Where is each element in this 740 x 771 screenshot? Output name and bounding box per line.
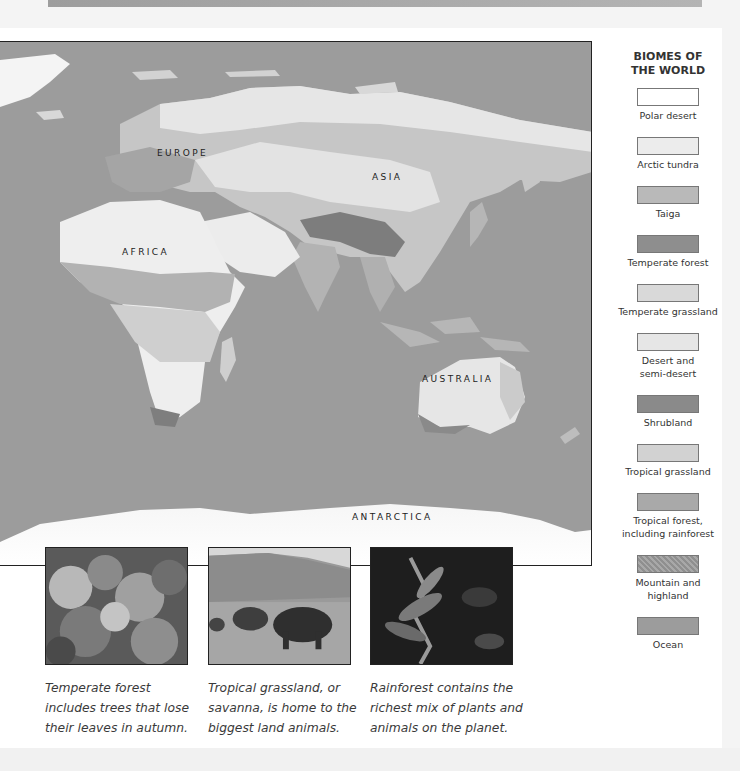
top-banner xyxy=(48,0,702,7)
swatch-desert xyxy=(637,333,699,351)
map-graphic xyxy=(0,42,592,566)
legend-item-ocean: Ocean xyxy=(604,617,732,651)
photo-savanna xyxy=(208,547,351,665)
label-asia: ASIA xyxy=(372,172,402,182)
label-africa: AFRICA xyxy=(122,247,169,257)
label-antarctica: ANTARCTICA xyxy=(352,512,433,522)
bottom-band xyxy=(0,748,740,771)
legend-title: BIOMES OF THE WORLD xyxy=(604,50,732,78)
swatch-mountain xyxy=(637,555,699,573)
swatch-taiga xyxy=(637,186,699,204)
legend-item-mountain: Mountain and highland xyxy=(604,555,732,602)
biome-map: EUROPE ASIA AFRICA AUSTRALIA ANTARCTICA xyxy=(0,41,592,566)
legend-item-desert: Desert and semi-desert xyxy=(604,333,732,380)
legend-item-shrubland: Shrubland xyxy=(604,395,732,429)
legend-item-temperate-forest: Temperate forest xyxy=(604,235,732,269)
swatch-polar-desert xyxy=(637,88,699,106)
legend-item-polar-desert: Polar desert xyxy=(604,88,732,122)
label-europe: EUROPE xyxy=(157,148,208,158)
legend-item-arctic-tundra: Arctic tundra xyxy=(604,137,732,171)
swatch-shrubland xyxy=(637,395,699,413)
photo-rainforest xyxy=(370,547,513,665)
legend-item-tropical-grassland: Tropical grassland xyxy=(604,444,732,478)
swatch-arctic-tundra xyxy=(637,137,699,155)
biomes-page: EUROPE ASIA AFRICA AUSTRALIA ANTARCTICA … xyxy=(0,0,740,771)
caption-temperate-forest: Temperate forest includes trees that los… xyxy=(45,678,205,738)
caption-rainforest: Rainforest contains the richest mix of p… xyxy=(370,678,530,738)
legend-item-tropical-forest: Tropical forest, including rainforest xyxy=(604,493,732,540)
swatch-temperate-forest xyxy=(637,235,699,253)
swatch-ocean xyxy=(637,617,699,635)
swatch-tropical-grassland xyxy=(637,444,699,462)
legend-item-temperate-grassland: Temperate grassland xyxy=(604,284,732,318)
biome-legend: BIOMES OF THE WORLD Polar desert Arctic … xyxy=(604,50,732,666)
swatch-tropical-forest xyxy=(637,493,699,511)
legend-item-taiga: Taiga xyxy=(604,186,732,220)
swatch-temperate-grassland xyxy=(637,284,699,302)
label-australia: AUSTRALIA xyxy=(422,374,493,384)
caption-savanna: Tropical grassland, or savanna, is home … xyxy=(208,678,368,738)
photo-temperate-forest xyxy=(45,547,188,665)
